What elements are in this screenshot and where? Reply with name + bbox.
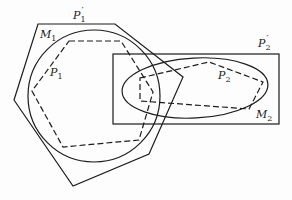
label-m2: M2 (255, 108, 272, 123)
label-p1: P1 (49, 66, 63, 81)
label-p2-prime: P2′ (257, 34, 271, 52)
polygon-p2 (140, 62, 263, 109)
label-p1-prime: P1′ (72, 6, 86, 24)
diagram-canvas: P1′ M1 P1 P2′ P2 M2 (0, 0, 292, 200)
ellipse-m2 (121, 54, 270, 122)
label-p2: P2 (217, 69, 231, 84)
diagram-svg: P1′ M1 P1 P2′ P2 M2 (0, 0, 292, 200)
polygon-p1 (32, 41, 153, 147)
label-m1: M1 (39, 28, 56, 43)
